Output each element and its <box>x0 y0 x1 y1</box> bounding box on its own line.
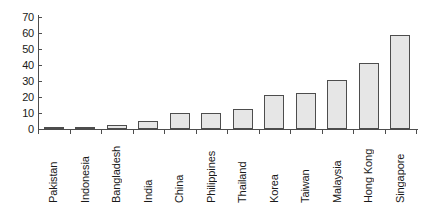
x-tick-label: Pakistan <box>48 134 59 203</box>
x-label-slot: Hong Kong <box>353 134 385 203</box>
x-label-slot: India <box>133 134 165 203</box>
bar[interactable] <box>170 113 190 129</box>
bar-slot <box>101 17 133 129</box>
x-label-slot: Thailand <box>227 134 259 203</box>
y-tick-label: 20 <box>22 92 34 103</box>
x-label-slot: Bangladesh <box>101 134 133 203</box>
bar-slot <box>196 17 228 129</box>
y-tick-label: 70 <box>22 12 34 23</box>
y-tick-label: 0 <box>28 124 34 135</box>
bar-slot <box>70 17 102 129</box>
bar[interactable] <box>264 95 284 129</box>
x-label-slot: China <box>164 134 196 203</box>
bar[interactable] <box>327 80 347 129</box>
bar[interactable] <box>359 63 379 129</box>
x-label-slot: Korea <box>259 134 291 203</box>
bar[interactable] <box>107 125 127 129</box>
bar[interactable] <box>296 93 316 129</box>
x-axis-category-labels: PakistanIndonesiaBangladeshIndiaChinaPhi… <box>38 134 416 203</box>
x-label-slot: Pakistan <box>38 134 70 203</box>
x-tick-label: Korea <box>269 134 280 203</box>
y-tick-label: 10 <box>22 108 34 119</box>
bar-slot <box>164 17 196 129</box>
y-axis-tick-labels: 70 60 50 40 30 20 10 0 <box>0 0 34 203</box>
y-tick-label: 60 <box>22 28 34 39</box>
bar-slot <box>322 17 354 129</box>
x-tick-label: Hong Kong <box>363 134 374 203</box>
plot-area <box>38 17 416 129</box>
x-tick-label: Indonesia <box>80 134 91 203</box>
bar[interactable] <box>201 113 221 129</box>
bar-slot <box>290 17 322 129</box>
x-tick-label: Philippines <box>206 134 217 203</box>
bar-slot <box>133 17 165 129</box>
x-axis-line <box>38 129 418 130</box>
bar[interactable] <box>75 127 95 129</box>
x-tick-label: Singapore <box>395 134 406 203</box>
bar-slot <box>385 17 417 129</box>
x-tick-mark <box>416 130 417 134</box>
bar-chart-figure: 70 60 50 40 30 20 10 0 PakistanIndonesia… <box>0 0 424 203</box>
bar[interactable] <box>44 127 64 129</box>
x-tick-label: China <box>174 134 185 203</box>
x-label-slot: Singapore <box>385 134 417 203</box>
y-tick-label: 50 <box>22 44 34 55</box>
x-label-slot: Malaysia <box>322 134 354 203</box>
bar[interactable] <box>390 35 410 129</box>
x-tick-label: Taiwan <box>300 134 311 203</box>
x-tick-label: India <box>143 134 154 203</box>
x-tick-label: Thailand <box>237 134 248 203</box>
x-label-slot: Philippines <box>196 134 228 203</box>
y-tick-label: 30 <box>22 76 34 87</box>
bar[interactable] <box>233 109 253 129</box>
bar-slot <box>227 17 259 129</box>
x-label-slot: Indonesia <box>70 134 102 203</box>
bar-slot <box>38 17 70 129</box>
bar-slot <box>259 17 291 129</box>
x-tick-label: Malaysia <box>332 134 343 203</box>
x-label-slot: Taiwan <box>290 134 322 203</box>
y-tick-label: 40 <box>22 60 34 71</box>
x-tick-label: Bangladesh <box>111 134 122 203</box>
bar[interactable] <box>138 121 158 129</box>
bar-slot <box>353 17 385 129</box>
